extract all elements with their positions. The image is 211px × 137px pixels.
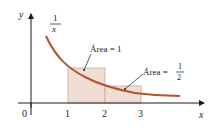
- rectangle-area-half: [105, 86, 141, 103]
- tick-label-1: 1: [65, 108, 70, 119]
- tick-label-3: 3: [138, 108, 143, 119]
- tick-label-2: 2: [102, 108, 107, 119]
- function-label-numerator: 1: [53, 13, 58, 23]
- y-axis-label: y: [18, 9, 24, 20]
- function-label-denominator: x: [51, 24, 56, 34]
- x-axis-label: x: [198, 109, 204, 120]
- annotation-area-half-prefix: Área =: [143, 67, 168, 77]
- annotation-area-half-denominator: 2: [177, 73, 181, 82]
- origin-label: 0: [22, 108, 27, 119]
- area-under-curve-diagram: y x 0 1 2 3 1 x Área = 1 Área = 1 2: [0, 0, 211, 137]
- leader-line-area-one: [84, 54, 91, 70]
- rectangle-area-one: [68, 68, 105, 103]
- annotation-area-one: Área = 1: [90, 44, 122, 54]
- diagram-canvas: y x 0 1 2 3 1 x Área = 1 Área = 1 2: [0, 0, 211, 137]
- annotation-area-half-numerator: 1: [178, 62, 182, 71]
